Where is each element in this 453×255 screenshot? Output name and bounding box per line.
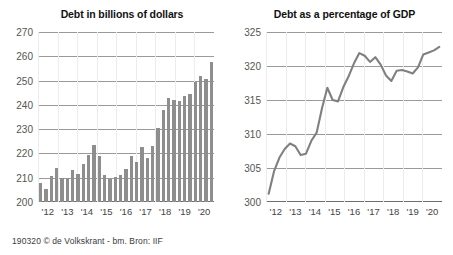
x-axis-labels-left: '12'13'14'15'16'17'18'19'20 [38,206,214,220]
bar [199,76,202,202]
y-axis-tick-label: 305 [244,163,261,174]
gridline [38,32,214,33]
y-axis-tick-label: 315 [244,95,261,106]
bar [103,175,106,202]
chart-panel-debt-percent-gdp: Debt as a percentage of GDP 300305310315… [224,0,453,232]
bar [50,176,53,202]
x-axis-tick-label: '17 [139,206,151,217]
y-axis-tick-label: 260 [16,51,33,62]
plot-area-line-chart: 300305310315320325 [266,32,442,202]
bar [178,101,181,202]
bar [146,158,149,202]
bar [108,179,111,202]
bar [140,147,143,202]
bar [151,146,154,202]
bar [135,162,138,202]
x-axis-tick-label: '15 [100,206,112,217]
y-axis-tick-label: 230 [16,124,33,135]
x-axis-tick-label: '13 [289,206,301,217]
figure-container: Debt in billions of dollars 200210220230… [0,0,453,255]
x-axis-tick-label: '19 [406,206,418,217]
line-series-path [269,47,440,194]
bar [194,82,197,202]
y-axis-tick-label: 300 [244,197,261,208]
bar [119,175,122,202]
x-axis-labels-right: '12'13'14'15'16'17'18'19'20 [266,206,442,220]
gridline [38,81,214,82]
source-caption: 190320 © de Volkskrant - bm. Bron: IIF [12,236,163,246]
chart-title-right: Debt as a percentage of GDP [224,8,453,20]
x-axis-tick-label: '12 [270,206,282,217]
x-axis-tick-label: '15 [328,206,340,217]
bar [188,94,191,202]
bar [76,174,79,202]
bar [71,170,74,202]
bar [87,155,90,202]
plot-area-bar-chart: 200210220230240250260270 [38,32,214,202]
bar [98,156,101,202]
x-axis-tick-label: '18 [387,206,399,217]
bar [124,169,127,202]
bar [167,98,170,202]
y-axis-tick-label: 325 [244,27,261,38]
bar [183,96,186,202]
x-axis-tick-label: '14 [309,206,321,217]
chart-title-left: Debt in billions of dollars [0,8,234,20]
bar [55,168,58,202]
y-axis-tick-label: 220 [16,148,33,159]
x-axis-tick-label: '19 [178,206,190,217]
x-axis-tick-label: '16 [120,206,132,217]
x-axis-tick-label: '14 [81,206,93,217]
chart-panel-debt-billions: Debt in billions of dollars 200210220230… [0,0,224,232]
bar [210,62,213,202]
x-axis-tick-label: '20 [198,206,210,217]
y-axis-tick-label: 270 [16,27,33,38]
y-axis-tick-label: 250 [16,75,33,86]
bar [162,110,165,202]
bar [82,164,85,202]
x-axis-tick-label: '17 [367,206,379,217]
x-axis-tick-label: '12 [42,206,54,217]
bar [114,177,117,203]
y-axis-tick-label: 200 [16,197,33,208]
y-axis-tick-label: 320 [244,61,261,72]
line-series-svg [266,32,442,202]
x-axis-tick-label: '16 [348,206,360,217]
bar [204,79,207,202]
x-axis-gridline [38,32,39,202]
bar [172,100,175,202]
bar [130,156,133,202]
bar [44,189,47,202]
y-axis-tick-label: 310 [244,129,261,140]
y-axis-tick-label: 240 [16,99,33,110]
x-axis-tick-label: '20 [426,206,438,217]
bar [39,183,42,202]
x-axis-tick-label: '13 [61,206,73,217]
gridline [38,56,214,57]
x-axis-tick-label: '18 [159,206,171,217]
bar [66,178,69,202]
bar [60,178,63,202]
bar [92,145,95,202]
bar [156,128,159,202]
y-axis-tick-label: 210 [16,172,33,183]
